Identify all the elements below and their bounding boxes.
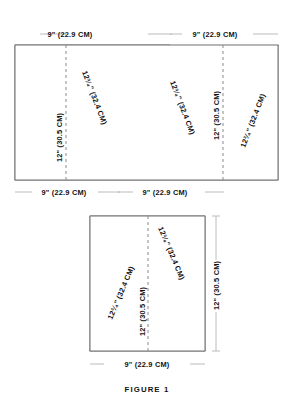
figure-caption: FIGURE 1 <box>125 385 170 394</box>
bottom-width-dim-label: 9" (22.9 CM) <box>125 360 170 369</box>
bottom-dim-label-1: 9" (22.9 CM) <box>42 188 87 197</box>
figure-1-svg: 9" (22.9 CM) 9" (22.9 CM) 9" (22.9 CM) 9… <box>0 0 293 407</box>
top-diagram-group: 9" (22.9 CM) 9" (22.9 CM) 9" (22.9 CM) 9… <box>15 30 278 197</box>
top-dim-label-1: 9" (22.9 CM) <box>48 30 93 39</box>
vertical-dim-label-left: 12" (30.5 CM) <box>55 112 64 162</box>
vertical-dim-label-right: 12" (30.5 CM) <box>212 90 221 140</box>
top-dim-label-2: 9" (22.9 CM) <box>193 30 238 39</box>
bottom-right-dim-label: 12" (30.5 CM) <box>212 260 221 310</box>
bottom-center-dim-label: 12" (30.5 CM) <box>138 286 147 336</box>
bottom-diagram-group: 12" (30.5 CM) 12" (30.5 CM) 9" (22.9 CM)… <box>90 216 221 369</box>
figure-1-container: 9" (22.9 CM) 9" (22.9 CM) 9" (22.9 CM) 9… <box>0 0 293 407</box>
bottom-dim-label-2: 9" (22.9 CM) <box>143 188 188 197</box>
